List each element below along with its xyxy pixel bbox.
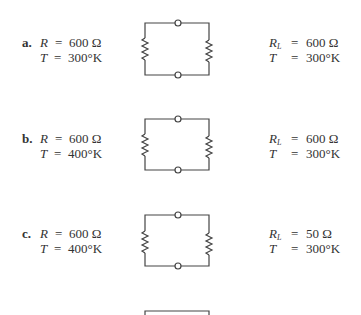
circuit-diagram-partial [0, 0, 361, 315]
